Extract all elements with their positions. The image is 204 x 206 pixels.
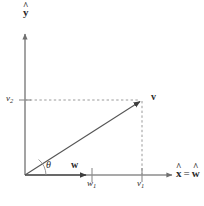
theta-angle-label: θ xyxy=(46,160,51,170)
w-hat-glyph: ^w xyxy=(192,168,200,179)
v2-tick-label: v2 xyxy=(6,94,13,104)
vector-v-label: v xyxy=(151,92,156,102)
equals-sign: = xyxy=(182,167,192,179)
vector-w-label: w xyxy=(71,160,78,170)
x-axis-label: ^x=^w xyxy=(176,168,200,179)
diagram-canvas xyxy=(0,0,204,206)
x-hat-glyph: ^x xyxy=(176,168,182,179)
y-hat-glyph: ^y xyxy=(23,7,29,18)
caption-text xyxy=(0,196,204,206)
y-hat-accent: ^ xyxy=(23,2,28,11)
v1-subscript: 1 xyxy=(141,182,144,189)
w1-tick-label: w1 xyxy=(87,179,96,189)
v2-subscript: 2 xyxy=(10,97,13,104)
v1-tick-label: v1 xyxy=(137,179,144,189)
w1-subscript: 1 xyxy=(93,182,96,189)
x-hat-accent: ^ xyxy=(176,163,181,172)
w-hat-accent: ^ xyxy=(193,163,198,172)
vector-diagram-figure: ^y ^x=^w v w θ v2 v1 w1 xyxy=(0,0,204,206)
y-axis-label: ^y xyxy=(23,7,29,18)
